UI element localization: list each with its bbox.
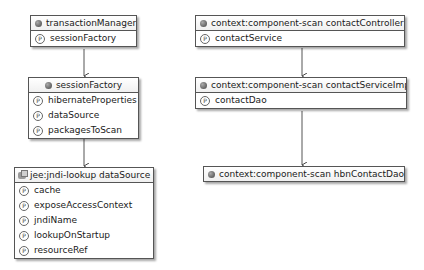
bean-name: context:component-scan hbnContactDao [219, 169, 404, 179]
property-name: contactDao [215, 95, 267, 105]
bean-icon [208, 171, 215, 178]
bean-icon [200, 20, 207, 27]
property-row[interactable]: PsessionFactory [31, 31, 136, 46]
bean-header[interactable]: jee:jndi-lookup dataSource [15, 168, 153, 183]
bean-header[interactable]: transactionManager [31, 16, 136, 31]
bean-icon [45, 82, 52, 89]
property-icon: P [19, 231, 29, 241]
property-icon: P [19, 201, 29, 211]
property-row[interactable]: PcontactService [196, 31, 404, 46]
property-icon: P [33, 126, 43, 136]
property-row[interactable]: PexposeAccessContext [15, 198, 153, 213]
bean-name: context:component-scan contactController [211, 18, 404, 28]
property-row[interactable]: PresourceRef [15, 243, 153, 258]
property-name: contactService [215, 33, 282, 43]
bean-header[interactable]: context:component-scan contactController [196, 16, 404, 31]
property-icon: P [200, 96, 210, 106]
property-name: sessionFactory [50, 33, 116, 43]
bean-icon [200, 82, 207, 89]
property-icon: P [200, 34, 210, 44]
property-name: resourceRef [34, 245, 87, 255]
bean-name: sessionFactory [56, 80, 122, 90]
property-row[interactable]: PdataSource [29, 108, 138, 123]
bean-name: transactionManager [46, 18, 136, 28]
property-name: jndiName [34, 215, 77, 225]
property-row[interactable]: PpackagesToScan [29, 123, 138, 138]
bean-contactController[interactable]: context:component-scan contactController… [195, 15, 405, 47]
property-name: lookupOnStartup [34, 230, 110, 240]
bean-header[interactable]: context:component-scan hbnContactDao [204, 167, 404, 181]
bean-name: context:component-scan contactServiceImp… [211, 80, 406, 90]
bean-hbnContactDao[interactable]: context:component-scan hbnContactDao [203, 166, 405, 182]
property-row[interactable]: PlookupOnStartup [15, 228, 153, 243]
bean-contactServiceImpl[interactable]: context:component-scan contactServiceImp… [195, 77, 407, 109]
property-icon: P [19, 186, 29, 196]
property-row[interactable]: PcontactDao [196, 93, 406, 108]
property-row[interactable]: PhibernateProperties [29, 93, 138, 108]
bean-header[interactable]: context:component-scan contactServiceImp… [196, 78, 406, 93]
property-name: dataSource [48, 110, 99, 120]
bean-icon [35, 20, 42, 27]
property-icon: P [35, 34, 45, 44]
bean-dataSource[interactable]: jee:jndi-lookup dataSource Pcache Pexpos… [14, 167, 154, 259]
property-name: cache [34, 185, 61, 195]
property-name: packagesToScan [48, 125, 122, 135]
bean-header[interactable]: sessionFactory [29, 78, 138, 93]
property-row[interactable]: Pcache [15, 183, 153, 198]
property-name: exposeAccessContext [34, 200, 132, 210]
property-row[interactable]: PjndiName [15, 213, 153, 228]
property-icon: P [19, 246, 29, 256]
bean-name: jee:jndi-lookup dataSource [30, 170, 150, 180]
bean-transactionManager[interactable]: transactionManager PsessionFactory [30, 15, 137, 47]
property-icon: P [33, 111, 43, 121]
jndi-lookup-icon [17, 170, 27, 180]
property-name: hibernateProperties [48, 95, 137, 105]
bean-sessionFactory[interactable]: sessionFactory PhibernateProperties Pdat… [28, 77, 139, 139]
property-icon: P [19, 216, 29, 226]
property-icon: P [33, 96, 43, 106]
